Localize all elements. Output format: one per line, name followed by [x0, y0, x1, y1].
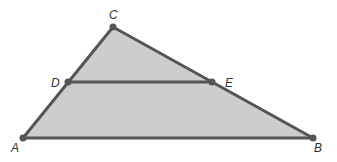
triangle-diagram: A B C D E	[0, 0, 337, 162]
label-a: A	[10, 141, 19, 155]
label-d: D	[51, 76, 60, 90]
point-e	[209, 79, 216, 86]
point-d	[65, 79, 72, 86]
label-c: C	[109, 8, 118, 22]
point-a	[20, 135, 27, 142]
label-b: B	[314, 141, 322, 155]
diagram-canvas: A B C D E	[0, 0, 337, 162]
point-c	[110, 24, 117, 31]
label-e: E	[225, 76, 234, 90]
